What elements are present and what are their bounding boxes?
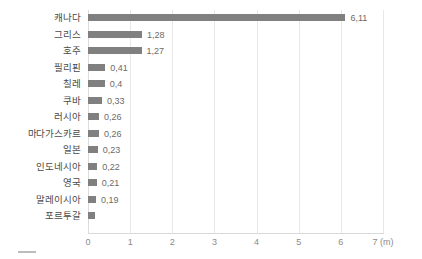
bar[interactable] [88,31,142,38]
category-label: 그리스 [0,27,81,43]
x-axis-baseline [88,233,384,234]
value-label: 0,4 [110,76,123,92]
value-label: 0,26 [104,109,122,125]
bar[interactable] [88,146,98,153]
value-label: 0,26 [104,126,122,142]
x-tick-label-0: 0 [68,236,108,248]
value-label: 0,23 [103,142,121,158]
x-tick-label-5: 5 [279,236,319,248]
value-label: 1,28 [147,27,165,43]
bar-row: 그리스1,28 [0,27,422,43]
bar[interactable] [88,14,345,21]
bar[interactable] [88,47,142,54]
value-label: 0,22 [102,159,120,175]
bar-row: 영국0,21 [0,175,422,191]
value-label: 0,33 [107,93,125,109]
x-tick-label-3: 3 [194,236,234,248]
legend-swatch-icon [18,251,36,253]
bar-row: 인도네시아0,22 [0,159,422,175]
bar-row: 일본0,23 [0,142,422,158]
bar-row: 쿠바0,33 [0,93,422,109]
bar[interactable] [88,163,97,170]
bar-row: 러시아0,26 [0,109,422,125]
bar-row: 캐나다6,11 [0,10,422,26]
bar[interactable] [88,130,99,137]
horizontal-bar-chart: 캐나다6,11그리스1,28호주1,27필리핀0,41칠레0,4쿠바0,33러시… [0,0,422,259]
bar-row: 포르투갈 [0,208,422,224]
category-label: 쿠바 [0,93,81,109]
bar[interactable] [88,196,96,203]
category-label: 러시아 [0,109,81,125]
category-label: 인도네시아 [0,159,81,175]
category-label: 일본 [0,142,81,158]
value-label: 0,41 [110,60,128,76]
category-label: 영국 [0,175,81,191]
bar-row: 칠레0,4 [0,76,422,92]
value-label: 0,21 [102,175,120,191]
category-label: 마다가스카르 [0,126,81,142]
category-label: 캐나다 [0,10,81,26]
bar-row: 마다가스카르0,26 [0,126,422,142]
bar-rows: 캐나다6,11그리스1,28호주1,27필리핀0,41칠레0,4쿠바0,33러시… [0,10,422,233]
category-label: 포르투갈 [0,208,81,224]
bar-row: 말레이시아0,19 [0,192,422,208]
x-tick-label-6: 6 [321,236,361,248]
bar[interactable] [88,64,105,71]
value-label: 1,27 [147,43,165,59]
bar-row: 호주1,27 [0,43,422,59]
value-label: 0,19 [101,192,119,208]
bar[interactable] [88,179,97,186]
category-label: 말레이시아 [0,192,81,208]
x-tick-label-1: 1 [110,236,150,248]
x-tick-label-2: 2 [152,236,192,248]
bar[interactable] [88,97,102,104]
bar-row: 필리핀0,41 [0,60,422,76]
category-label: 칠레 [0,76,81,92]
category-label: 필리핀 [0,60,81,76]
bar[interactable] [88,212,95,219]
bar[interactable] [88,80,105,87]
x-tick-label-7: 7 (m) [363,236,403,248]
bar[interactable] [88,113,99,120]
x-tick-label-4: 4 [237,236,277,248]
category-label: 호주 [0,43,81,59]
value-label: 6,11 [350,10,367,26]
